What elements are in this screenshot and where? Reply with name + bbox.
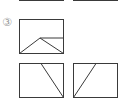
- composite-right-slope: [40, 38, 64, 54]
- option-right-diagonal: [74, 64, 97, 98]
- option-left-figure: [20, 64, 64, 98]
- problem-number-label: ③: [2, 16, 12, 29]
- option-left-diagonal: [41, 64, 64, 98]
- option-right-figure: [74, 64, 118, 98]
- composite-figure: [20, 20, 65, 54]
- diagram-canvas: ③: [0, 0, 118, 101]
- option-right-rectangle: [74, 64, 118, 98]
- composite-left-slope: [20, 38, 41, 54]
- option-left-rectangle: [20, 64, 64, 98]
